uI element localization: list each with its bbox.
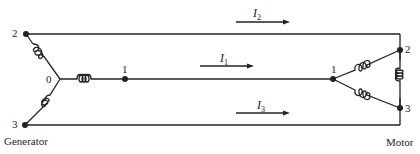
motor-coil-23: [396, 50, 404, 108]
arrow-head-icon: [247, 64, 254, 69]
generator-coil-1: [60, 75, 125, 83]
node-dot: [330, 76, 336, 82]
arrow-head-icon: [283, 111, 290, 116]
motor-node-2-label: 2: [405, 44, 411, 55]
gen-node-0-label: 0: [46, 74, 52, 85]
motor-node-3-label: 3: [405, 103, 411, 114]
node-dot: [23, 31, 29, 37]
generator-coil-3: [25, 79, 60, 125]
node-dot: [397, 105, 403, 111]
gen-node-2-label: 2: [12, 28, 18, 39]
arrow-head-icon: [283, 20, 290, 25]
gen-node-3-label: 3: [12, 119, 18, 130]
motor-node-1-label: 1: [331, 64, 337, 75]
motor-label: Motor: [386, 137, 414, 148]
current-i1-label: I1: [220, 52, 228, 67]
current-i2-label: I2: [253, 7, 261, 22]
node-dot: [122, 76, 128, 82]
motor-coil-12: [333, 50, 400, 79]
generator-label: Generator: [4, 136, 48, 147]
circuit-drawing: [0, 0, 420, 154]
motor-coil-13: [333, 79, 400, 108]
node-dot: [397, 47, 403, 53]
gen-node-1-label: 1: [122, 64, 128, 75]
node-dot: [22, 122, 28, 128]
current-i3-label: I3: [257, 99, 265, 114]
three-phase-circuit-diagram: 2 3 0 1 Generator 2 3 1 Motor I2 I1 I3: [0, 0, 420, 154]
